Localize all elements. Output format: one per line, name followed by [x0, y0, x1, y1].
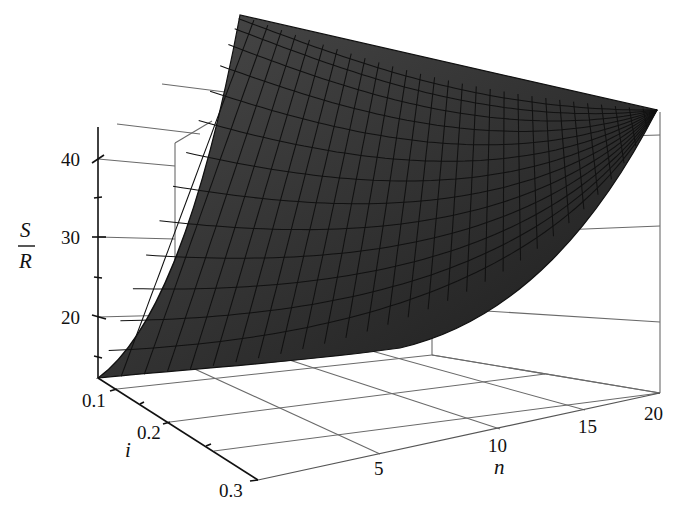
i-axis: 0.1 0.2 0.3 i [82, 378, 258, 501]
z-axis: 40 30 20 S R [18, 127, 106, 378]
z-axis-label-denominator: R [18, 249, 32, 273]
i-tick-0.2: 0.2 [137, 422, 161, 443]
i-tick-0.3: 0.3 [219, 480, 243, 501]
n-tick-5: 5 [374, 458, 384, 479]
n-axis-label: n [494, 455, 505, 479]
z-tick-30: 30 [61, 227, 80, 248]
z-tick-40: 40 [61, 149, 80, 170]
n-axis: 5 10 15 20 n [258, 393, 663, 480]
z-axis-label-numerator: S [20, 218, 31, 242]
n-tick-10: 10 [488, 435, 507, 456]
i-axis-label: i [125, 438, 131, 462]
i-tick-0.1: 0.1 [82, 390, 106, 411]
surface [98, 15, 657, 378]
n-tick-20: 20 [644, 403, 663, 424]
surface-plot: 40 30 20 S R 0.1 0.2 0.3 i 5 10 15 20 n [0, 0, 680, 517]
z-tick-20: 20 [61, 307, 80, 328]
n-tick-15: 15 [578, 416, 597, 437]
